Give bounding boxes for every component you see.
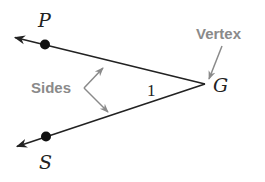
sides-callout-arrow-upper [84, 68, 103, 88]
sides-callout-arrow-lower [84, 88, 108, 112]
sides-callout-label: Sides [31, 79, 71, 96]
point-p [40, 40, 50, 50]
label-g: G [213, 74, 228, 96]
angle-diagram: P S G 1 Vertex Sides [0, 0, 265, 182]
point-s [41, 132, 51, 142]
vertex-callout-label: Vertex [196, 25, 242, 42]
label-s: S [39, 151, 52, 173]
angle-number-label: 1 [147, 81, 156, 100]
label-p: P [37, 9, 52, 31]
